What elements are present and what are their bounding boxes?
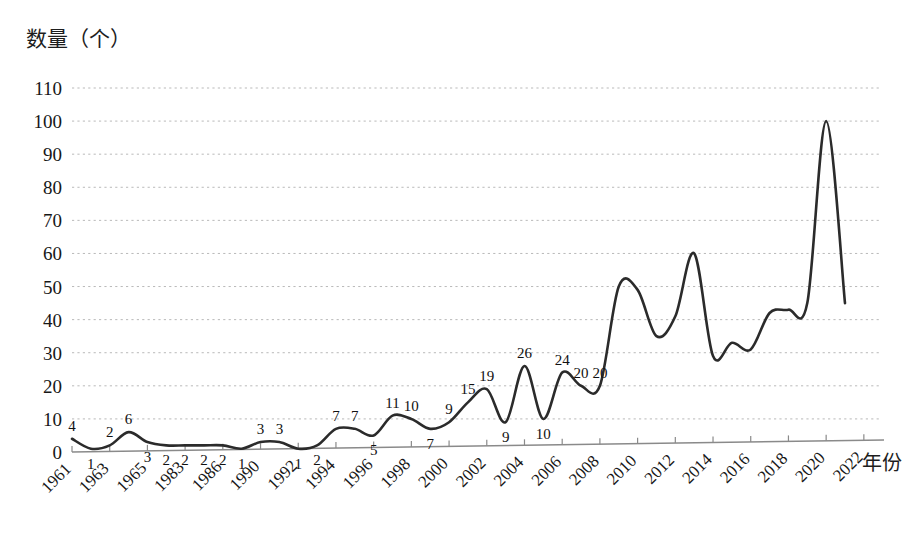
data-label: 1 (87, 456, 95, 472)
data-label: 9 (502, 429, 510, 445)
data-label: 3 (257, 421, 265, 437)
x-tick-label: 1961 (37, 459, 74, 496)
chart-canvas: 0102030405060708090100110 19611963196519… (0, 0, 922, 536)
data-label: 4 (68, 418, 76, 434)
data-label: 7 (332, 408, 340, 424)
data-label: 24 (555, 352, 571, 368)
data-label: 11 (385, 395, 399, 411)
data-label: 3 (144, 449, 152, 465)
x-tick-label: 2008 (565, 452, 602, 489)
data-label: 1 (294, 456, 302, 472)
data-label: 2 (106, 424, 114, 440)
x-axis-title: 年份 (862, 451, 902, 475)
data-label: 9 (445, 401, 453, 417)
data-label: 10 (404, 398, 419, 414)
data-label: 5 (370, 442, 378, 458)
y-tick-label: 60 (43, 243, 62, 264)
x-tick-label: 1996 (339, 455, 376, 492)
x-tick-label: 2004 (490, 452, 528, 490)
data-label: 2 (200, 452, 208, 468)
data-series-line (72, 121, 845, 449)
data-point-labels: 41263222213312775111079151992610242020 (68, 345, 607, 472)
x-tick-label: 2014 (678, 450, 716, 488)
data-label: 20 (574, 365, 589, 381)
y-tick-label: 10 (43, 409, 62, 430)
grid-lines (72, 88, 880, 419)
y-tick-label: 40 (43, 310, 62, 331)
y-axis-title: 数量（个） (26, 27, 131, 51)
data-label: 2 (181, 452, 189, 468)
y-tick-label: 70 (43, 210, 62, 231)
y-tick-label: 90 (43, 144, 62, 165)
y-axis-ticks: 0102030405060708090100110 (34, 78, 63, 463)
data-label: 7 (426, 436, 434, 452)
x-tick-label: 2002 (452, 453, 489, 490)
data-label: 3 (276, 421, 284, 437)
data-label: 2 (219, 452, 227, 468)
data-label: 1 (238, 456, 246, 472)
y-tick-label: 20 (43, 376, 62, 397)
x-tick-label: 2012 (641, 450, 678, 487)
data-label: 6 (125, 411, 133, 427)
data-label: 20 (592, 365, 607, 381)
x-tick-label: 2000 (414, 454, 451, 491)
y-tick-label: 110 (34, 78, 62, 99)
data-label: 2 (313, 452, 321, 468)
y-tick-label: 100 (34, 111, 63, 132)
x-tick-label: 2010 (603, 451, 640, 488)
data-label: 2 (163, 452, 171, 468)
line-chart: 0102030405060708090100110 19611963196519… (0, 0, 922, 536)
x-tick-label: 2018 (754, 449, 791, 486)
x-tick-label: 2020 (791, 448, 828, 485)
data-label: 19 (479, 368, 494, 384)
x-tick-label: 2006 (528, 452, 565, 489)
y-tick-label: 50 (43, 277, 62, 298)
data-label: 26 (517, 345, 533, 361)
data-label: 7 (351, 408, 359, 424)
data-label: 15 (460, 381, 475, 397)
x-tick-label: 1998 (377, 454, 414, 491)
y-tick-label: 30 (43, 343, 62, 364)
x-tick-label: 2016 (716, 449, 753, 486)
data-label: 10 (536, 426, 551, 442)
y-tick-label: 80 (43, 177, 62, 198)
